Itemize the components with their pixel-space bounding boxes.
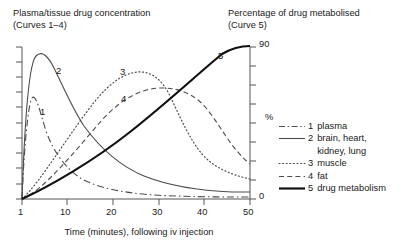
legend-item-4: 4 fat — [278, 170, 386, 182]
curve-label-1: 1 — [40, 106, 45, 117]
x-tick-label-30: 30 — [152, 207, 162, 217]
legend-item-2: 2 brain, heart, kidney, lung — [278, 132, 386, 157]
legend-key-dashed-icon — [278, 170, 308, 182]
right-axis-tick-90: 90 — [259, 39, 269, 49]
legend: 1 plasma 2 brain, heart, kidney, lung 3 … — [278, 120, 386, 194]
legend-key-dotted-icon — [278, 157, 308, 169]
legend-item-3: 3 muscle — [278, 157, 386, 169]
legend-item-1: 1 plasma — [278, 120, 386, 132]
right-axis-unit-label: % — [265, 112, 273, 122]
chart-figure: Plasma/tissue drug concentration (Curves… — [0, 0, 414, 248]
x-tick-label-50: 50 — [243, 207, 253, 217]
curve-3-muscle — [22, 72, 250, 199]
x-tick-label-40: 40 — [197, 207, 207, 217]
curve-label-2: 2 — [56, 65, 61, 76]
curve-label-3: 3 — [120, 66, 125, 77]
curve-label-4: 4 — [121, 93, 126, 104]
x-tick-label-20: 20 — [106, 207, 116, 217]
legend-label-2: brain, heart, kidney, lung — [317, 132, 367, 157]
legend-key-solid-thick-icon — [278, 182, 308, 194]
legend-num-5: 5 — [308, 182, 313, 194]
curve-label-5: 5 — [218, 50, 223, 61]
x-axis-title: Time (minutes), following iv injection — [0, 227, 278, 237]
legend-key-solid-thin-icon — [278, 132, 308, 144]
legend-num-3: 3 — [308, 157, 313, 169]
legend-item-5: 5 drug metabolism — [278, 182, 386, 194]
left-axis-ticks — [16, 47, 22, 199]
legend-label-3: muscle — [317, 157, 346, 169]
x-axis-ticks — [22, 199, 250, 205]
legend-label-4: fat — [317, 170, 327, 182]
legend-label-1: plasma — [317, 120, 347, 132]
legend-num-1: 1 — [308, 120, 313, 132]
curve-1-plasma — [22, 97, 250, 199]
x-tick-label-10: 10 — [60, 207, 70, 217]
legend-num-4: 4 — [308, 170, 313, 182]
x-tick-label-1: 1 — [18, 207, 23, 217]
legend-key-dash-dot-icon — [278, 120, 308, 132]
right-axis-tick-0: 0 — [259, 191, 264, 201]
right-axis-ticks — [250, 47, 256, 199]
legend-label-5: drug metabolism — [317, 182, 386, 194]
legend-num-2: 2 — [308, 132, 313, 144]
